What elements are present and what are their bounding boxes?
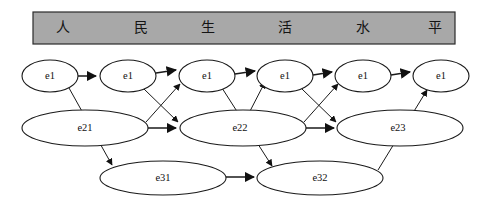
header-char-5: 水: [356, 20, 370, 35]
nodes-group: e1 e1 e1 e1 e1 e1: [22, 60, 469, 195]
lattice-figure: 人 民 生 活 水 平: [0, 0, 489, 211]
edge-m1-t3: [146, 84, 180, 122]
node-label: e1: [45, 70, 55, 81]
node-b1[interactable]: e31: [100, 161, 226, 195]
header-bar: [33, 12, 455, 44]
node-label: e22: [232, 122, 247, 133]
node-t3[interactable]: e1: [179, 60, 235, 92]
node-label: e23: [390, 122, 405, 133]
edge-t3-t4: [235, 71, 255, 74]
node-t4[interactable]: e1: [257, 60, 313, 92]
header-char-6: 平: [428, 20, 442, 35]
header-char-4: 活: [278, 20, 292, 35]
node-label: e32: [312, 172, 327, 183]
node-label: e1: [123, 70, 133, 81]
node-m2[interactable]: e22: [180, 110, 306, 146]
header-char-2: 民: [134, 20, 148, 35]
lattice-diagram-canvas: 人 民 生 活 水 平: [0, 0, 489, 211]
node-label: e1: [280, 70, 290, 81]
header-char-3: 生: [201, 20, 215, 35]
header-char-1: 人: [56, 20, 70, 35]
node-b2[interactable]: e32: [257, 161, 383, 195]
edge-t5-t6: [391, 72, 410, 75]
edge-m2-t5: [304, 84, 338, 122]
node-t1[interactable]: e1: [22, 60, 78, 92]
header-bar-group: 人 民 生 活 水 平: [33, 12, 455, 44]
node-label: e1: [436, 70, 446, 81]
node-label: e21: [77, 122, 92, 133]
node-t5[interactable]: e1: [335, 60, 391, 92]
node-label: e31: [155, 172, 170, 183]
edge-t4-t5: [313, 72, 332, 75]
node-t2[interactable]: e1: [100, 60, 156, 92]
node-label: e1: [202, 70, 212, 81]
edge-t2-t3: [156, 70, 176, 73]
node-m1[interactable]: e21: [22, 110, 148, 146]
node-label: e1: [358, 70, 368, 81]
node-t6[interactable]: e1: [413, 60, 469, 92]
node-m3[interactable]: e23: [337, 110, 463, 146]
